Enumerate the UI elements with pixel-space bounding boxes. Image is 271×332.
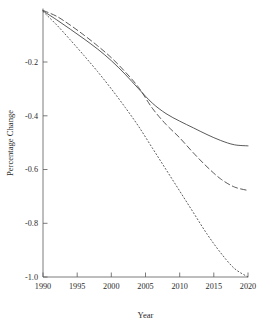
- x-axis-title: Year: [138, 310, 154, 320]
- y-tick-label-5: -1.0: [25, 273, 38, 282]
- x-tick-label-2000: 2000: [103, 282, 119, 291]
- x-tick-label-1995: 1995: [69, 282, 85, 291]
- x-tick-label-2015: 2015: [206, 282, 222, 291]
- y-tick-label-2: -0.4: [25, 112, 38, 121]
- series-line-dashed: [43, 10, 248, 190]
- series-line-solid: [43, 11, 248, 146]
- y-tick-label-3: -0.6: [25, 165, 38, 174]
- y-tick-label-4: -0.8: [25, 219, 38, 228]
- x-tick-label-2010: 2010: [172, 282, 188, 291]
- line-chart: -0.2 -0.4 -0.6 -0.8 -1.0 1990 1995 2000 …: [0, 0, 271, 332]
- x-tick-label-2005: 2005: [137, 282, 153, 291]
- series-line-dotted: [43, 11, 248, 277]
- data-series-group: [43, 10, 248, 277]
- y-tick-marks: [43, 62, 48, 277]
- x-tick-label-2020: 2020: [240, 282, 256, 291]
- y-tick-label-1: -0.2: [25, 58, 38, 67]
- x-tick-marks: [43, 273, 248, 278]
- y-axis-title: Percentage Change: [5, 110, 15, 176]
- plot-canvas: -0.2 -0.4 -0.6 -0.8 -1.0 1990 1995 2000 …: [0, 0, 271, 332]
- x-tick-label-1990: 1990: [35, 282, 51, 291]
